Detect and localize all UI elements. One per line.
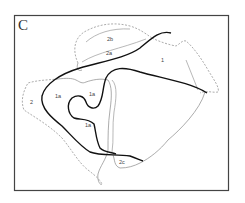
label-2a: 2a (106, 50, 113, 56)
region-1-lower-outline (140, 92, 205, 163)
central-thin-line-2 (112, 80, 116, 152)
label-2b: 2b (107, 36, 113, 42)
central-thin-line-1 (98, 80, 112, 184)
region-1a-top-outline (58, 78, 108, 82)
label-2: 2 (30, 99, 33, 105)
panel-label: C (18, 17, 28, 33)
label-2c: 2c (119, 159, 125, 165)
region-2-top-outline-left (77, 63, 82, 71)
label-1a-bottom: 1a (85, 122, 92, 128)
label-1a-top: 1a (89, 91, 96, 97)
label-1a-left: 1a (55, 93, 62, 99)
diagram-figure: C 2b 2a 1 2 1a 1a 1a 2c (0, 0, 245, 203)
label-1: 1 (161, 57, 164, 63)
region-1-outline (152, 38, 218, 93)
region-2c-outline (113, 155, 140, 168)
